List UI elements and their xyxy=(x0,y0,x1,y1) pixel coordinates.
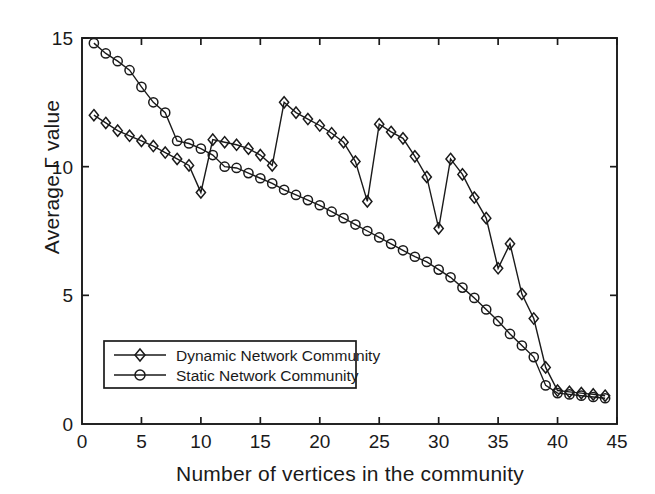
legend-label: Static Network Community xyxy=(176,367,359,384)
x-tick-label: 5 xyxy=(136,431,147,452)
chart-legend[interactable]: Dynamic Network CommunityStatic Network … xyxy=(104,341,380,388)
y-tick-label: 10 xyxy=(52,157,73,178)
plot-canvas: 051015202530354045051015 Dynamic Network… xyxy=(0,0,655,494)
x-tick-label: 25 xyxy=(369,431,390,452)
y-tick-label: 15 xyxy=(52,28,73,49)
x-tick-label: 35 xyxy=(488,431,509,452)
y-tick-label: 0 xyxy=(62,414,73,435)
legend-label: Dynamic Network Community xyxy=(176,347,380,364)
x-tick-label: 40 xyxy=(547,431,568,452)
x-tick-label: 0 xyxy=(77,431,88,452)
x-tick-label: 20 xyxy=(309,431,330,452)
chart-figure: Average Γ value Number of vertices in th… xyxy=(0,0,655,494)
x-tick-label: 15 xyxy=(250,431,271,452)
x-tick-label: 10 xyxy=(190,431,211,452)
y-tick-label: 5 xyxy=(62,285,73,306)
x-tick-label: 45 xyxy=(606,431,627,452)
x-tick-label: 30 xyxy=(428,431,449,452)
